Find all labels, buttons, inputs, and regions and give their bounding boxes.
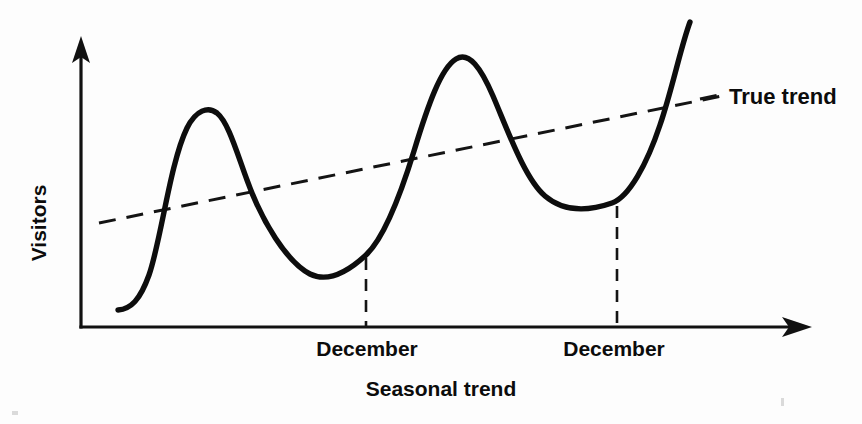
x-tick-label-december-1: December [316, 337, 418, 360]
y-axis-title: Visitors [27, 185, 50, 262]
seasonal-trend-chart: Visitors December December Seasonal tren… [0, 0, 862, 424]
x-axis-title: Seasonal trend [366, 377, 517, 400]
scan-speck [781, 398, 784, 406]
chart-figure: Visitors December December Seasonal tren… [0, 0, 862, 424]
x-tick-label-december-2: December [563, 337, 665, 360]
chart-background [0, 0, 862, 424]
scan-speck [12, 411, 18, 415]
legend-label-true-trend: True trend [729, 84, 837, 109]
